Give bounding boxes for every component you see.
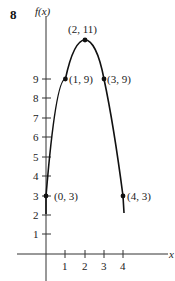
function-graph: 8 f(x) x 1 2 3 4 1 2 3 4 5 6 7 8 9	[0, 0, 175, 281]
parabola-curve	[46, 40, 124, 214]
point-1-9	[63, 77, 68, 82]
y-tick-labels: 1 2 3 4 5 6 7 8 9	[33, 73, 39, 240]
svg-text:1: 1	[62, 260, 68, 272]
point-0-3	[44, 194, 49, 199]
y-axis-label: f(x)	[35, 5, 51, 18]
svg-text:3: 3	[33, 190, 39, 202]
problem-number: 8	[10, 7, 17, 22]
svg-text:4: 4	[120, 260, 126, 272]
label-4-3: (4, 3)	[127, 190, 151, 203]
svg-text:2: 2	[33, 209, 39, 221]
svg-text:3: 3	[101, 260, 107, 272]
label-1-9: (1, 9)	[69, 73, 93, 86]
svg-text:9: 9	[33, 73, 39, 85]
label-3-9: (3, 9)	[107, 73, 131, 86]
svg-text:7: 7	[33, 112, 39, 124]
label-2-11: (2, 11)	[68, 23, 97, 36]
x-axis-label: x	[168, 248, 174, 260]
x-tick-labels: 1 2 3 4	[62, 260, 126, 272]
point-3-9	[102, 77, 107, 82]
point-4-3	[121, 194, 126, 199]
point-labels: (0, 3) (1, 9) (2, 11) (3, 9) (4, 3)	[54, 23, 151, 203]
svg-text:8: 8	[33, 92, 39, 104]
svg-text:4: 4	[33, 170, 39, 182]
data-points	[44, 38, 126, 199]
svg-text:1: 1	[33, 228, 39, 240]
label-0-3: (0, 3)	[54, 190, 78, 203]
svg-text:2: 2	[82, 260, 88, 272]
point-2-11	[83, 38, 88, 43]
svg-text:6: 6	[33, 131, 39, 143]
svg-text:5: 5	[33, 151, 39, 163]
